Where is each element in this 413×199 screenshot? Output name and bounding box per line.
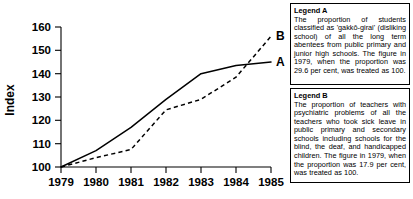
- legend-a-title: Legend A: [294, 6, 406, 15]
- y-axis-title: Index: [3, 84, 17, 116]
- y-tick-label: 130: [32, 91, 51, 103]
- legend-b-box: Legend B The proportion of teachers with…: [290, 88, 410, 183]
- series-line-a: [61, 62, 271, 167]
- y-tick-label: 100: [32, 161, 51, 173]
- legend-a-body: The proportion of students classified as…: [294, 16, 406, 76]
- x-axis-ticks: [61, 167, 271, 173]
- x-tick-label: 1982: [153, 176, 179, 188]
- y-tick-label: 120: [32, 114, 51, 126]
- x-axis-tick-labels: 1979 1980 1981 1982 1983 1984 1985: [48, 176, 284, 188]
- x-tick-label: 1979: [48, 176, 74, 188]
- y-axis-tick-labels: 160 150 140 130 120 110 100: [32, 21, 51, 173]
- y-tick-label: 160: [32, 21, 51, 33]
- series-end-label-a: A: [276, 55, 285, 69]
- y-tick-label: 150: [32, 44, 51, 56]
- x-tick-label: 1980: [83, 176, 109, 188]
- x-tick-label: 1981: [118, 176, 144, 188]
- chart-region: Index 160 150 140 130 120 110 100: [0, 0, 288, 199]
- x-tick-label: 1983: [188, 176, 214, 188]
- y-tick-label: 140: [32, 68, 51, 80]
- y-axis-ticks: [55, 27, 61, 167]
- line-chart: Index 160 150 140 130 120 110 100: [0, 0, 288, 199]
- x-tick-label: 1985: [258, 176, 284, 188]
- x-tick-label: 1984: [223, 176, 249, 188]
- series-line-b: [61, 36, 271, 167]
- legend-b-body: The proportion of teachers with psychiat…: [294, 101, 406, 178]
- series-end-label-b: B: [276, 29, 285, 43]
- legend-b-title: Legend B: [294, 91, 406, 100]
- legend-a-box: Legend A The proportion of students clas…: [290, 3, 410, 85]
- y-tick-label: 110: [32, 138, 51, 150]
